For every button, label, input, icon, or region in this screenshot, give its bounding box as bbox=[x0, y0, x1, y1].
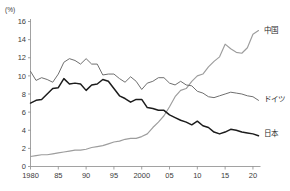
y-tick-label: 16 bbox=[18, 17, 26, 26]
x-tick-label: 2000 bbox=[133, 171, 150, 180]
x-tick-label: 85 bbox=[54, 171, 62, 180]
x-tick-label: 95 bbox=[110, 171, 118, 180]
y-tick-label: 10 bbox=[18, 72, 26, 81]
y-tick-label: 12 bbox=[18, 53, 26, 62]
tick-labels: 02468101214161980859095200005101520 bbox=[18, 17, 257, 180]
series-lines bbox=[31, 31, 259, 157]
series-line-china bbox=[31, 31, 259, 157]
series-labels: 中国ドイツ日本 bbox=[264, 25, 285, 137]
y-tick-label: 2 bbox=[22, 144, 26, 153]
x-tick-label: 1980 bbox=[22, 171, 39, 180]
y-tick-label: 14 bbox=[18, 35, 26, 44]
series-line-japan bbox=[31, 79, 259, 136]
y-tick-label: 8 bbox=[22, 90, 26, 99]
x-tick-label: 15 bbox=[221, 171, 229, 180]
series-label-china: 中国 bbox=[264, 25, 278, 35]
x-tick-label: 05 bbox=[165, 171, 173, 180]
x-tick-label: 90 bbox=[82, 171, 90, 180]
series-label-japan: 日本 bbox=[264, 128, 279, 138]
y-tick-label: 0 bbox=[22, 162, 26, 171]
series-label-germany: ドイツ bbox=[264, 95, 285, 104]
x-tick-label: 20 bbox=[249, 171, 257, 180]
x-tick-label: 10 bbox=[193, 171, 201, 180]
y-tick-label: 4 bbox=[22, 126, 26, 135]
y-axis-unit-label: (%) bbox=[5, 6, 15, 14]
export-share-line-chart: 02468101214161980859095200005101520 中国ドイ… bbox=[0, 0, 290, 191]
chart-svg: 02468101214161980859095200005101520 中国ドイ… bbox=[0, 0, 290, 191]
y-tick-label: 6 bbox=[22, 108, 26, 117]
